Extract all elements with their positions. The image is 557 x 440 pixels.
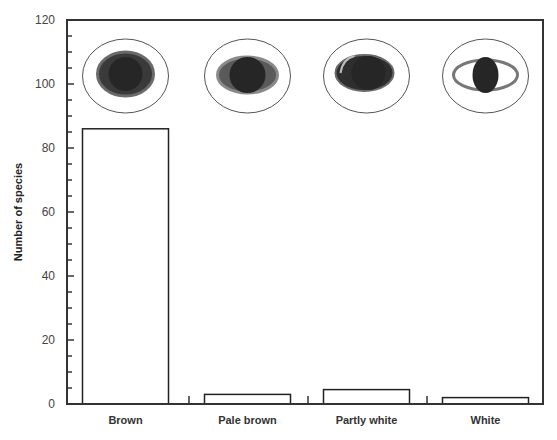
- bar-chart: 020406080100120 BrownPale brownPartly wh…: [0, 0, 557, 440]
- x-tick-label: Pale brown: [218, 414, 277, 426]
- y-tick-label: 0: [48, 397, 55, 411]
- eye-partly-white-iris-icon: [324, 39, 410, 113]
- eye-brown-iris-icon: [83, 39, 169, 113]
- eye-white-sclera-icon: [443, 39, 529, 113]
- y-tick-label: 80: [42, 141, 56, 155]
- bar-brown: [83, 129, 169, 404]
- x-tick-label: Partly white: [336, 414, 398, 426]
- y-tick-label: 40: [42, 269, 56, 283]
- y-tick-label: 60: [42, 205, 56, 219]
- y-tick-label: 120: [35, 13, 55, 27]
- y-axis-title: Number of species: [12, 163, 24, 261]
- y-tick-label: 100: [35, 77, 55, 91]
- eye-pale-brown-iris-icon: [205, 39, 291, 113]
- bar-partly-white: [324, 390, 410, 404]
- bars: [83, 129, 529, 404]
- bar-pale-brown: [205, 394, 291, 404]
- y-axis: 020406080100120: [35, 13, 74, 411]
- y-tick-label: 20: [42, 333, 56, 347]
- x-tick-label: White: [471, 414, 501, 426]
- eye-icons: [83, 39, 529, 113]
- x-tick-label: Brown: [108, 414, 143, 426]
